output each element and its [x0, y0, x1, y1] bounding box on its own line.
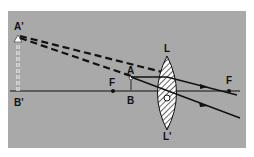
ray-parallel — [131, 77, 237, 95]
ray-diagram — [0, 0, 254, 157]
virtual-ray-1 — [20, 36, 162, 72]
lens-center-icon — [164, 95, 170, 101]
label-image-bottom: B' — [14, 98, 24, 108]
focus-right-dot — [227, 89, 231, 93]
focus-left-dot — [111, 89, 115, 93]
label-focus-right: F — [226, 76, 232, 86]
ray-through-center — [131, 77, 240, 118]
label-lens-top: L — [164, 44, 170, 54]
label-object-top: A — [127, 66, 134, 76]
label-focus-left: F — [109, 78, 115, 88]
label-object-bottom: B — [127, 96, 134, 106]
label-lens-bottom: L' — [163, 132, 172, 142]
virtual-ray-2 — [20, 38, 131, 76]
label-image-top: A' — [14, 22, 24, 32]
